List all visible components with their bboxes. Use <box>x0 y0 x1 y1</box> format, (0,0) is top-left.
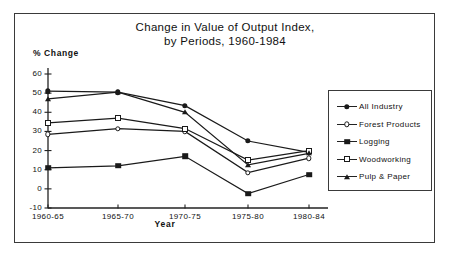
x-tick-label: 1975-80 <box>218 212 278 221</box>
series-line-4 <box>48 92 309 165</box>
y-tick-label: -10 <box>20 203 42 212</box>
legend-symbol <box>337 153 357 165</box>
filled-square-marker <box>245 191 251 197</box>
legend-symbol <box>337 136 357 148</box>
y-tick-label: 0 <box>20 184 42 193</box>
filled-triangle-marker <box>182 110 188 115</box>
legend-label: Logging <box>359 137 390 146</box>
series-line-2 <box>48 156 309 193</box>
legend-label: Woodworking <box>359 155 411 164</box>
y-tick-label: 10 <box>20 165 42 174</box>
filled-circle-icon <box>344 104 349 109</box>
x-tick-label: 1980-84 <box>279 212 339 221</box>
y-tick-label: 30 <box>20 126 42 135</box>
legend-symbol <box>337 101 357 113</box>
y-tick-label: 20 <box>20 146 42 155</box>
filled-square-marker <box>115 163 121 169</box>
open-square-marker <box>115 115 121 121</box>
filled-triangle-marker <box>306 151 312 156</box>
legend-item[interactable]: All Industry <box>337 98 431 116</box>
legend-label: All Industry <box>359 102 403 111</box>
filled-square-marker <box>182 154 188 160</box>
x-tick-label: 1970-75 <box>155 212 215 221</box>
series-line-1 <box>48 129 309 173</box>
filled-triangle-icon <box>344 174 350 179</box>
legend-label: Pulp & Paper <box>359 172 410 181</box>
open-circle-icon <box>344 122 349 127</box>
filled-triangle-marker <box>245 162 251 167</box>
filled-square-marker <box>45 165 51 171</box>
filled-square-icon <box>344 139 350 145</box>
y-tick-label: 60 <box>20 69 42 78</box>
filled-triangle-marker <box>45 96 51 101</box>
open-square-marker <box>45 120 51 126</box>
y-tick-label: 40 <box>20 107 42 116</box>
x-tick-label: 1965-70 <box>88 212 148 221</box>
legend-label: Forest Products <box>359 120 421 129</box>
open-square-icon <box>344 156 350 162</box>
y-tick-label: 50 <box>20 88 42 97</box>
open-square-marker <box>182 126 188 132</box>
filled-square-marker <box>306 172 312 178</box>
filled-triangle-marker <box>115 89 121 94</box>
figure-frame: Change in Value of Output Index, by Peri… <box>14 13 435 243</box>
x-tick-label: 1960-65 <box>18 212 78 221</box>
legend-item[interactable]: Pulp & Paper <box>337 168 431 186</box>
legend-symbol <box>337 171 357 183</box>
series-line-0 <box>48 91 309 152</box>
legend-item[interactable]: Woodworking <box>337 151 431 169</box>
legend-item[interactable]: Logging <box>337 133 431 151</box>
legend-symbol <box>337 118 357 130</box>
legend-box: All IndustryForest ProductsLoggingWoodwo… <box>328 90 432 191</box>
series-line-3 <box>48 118 309 160</box>
legend-item[interactable]: Forest Products <box>337 116 431 134</box>
